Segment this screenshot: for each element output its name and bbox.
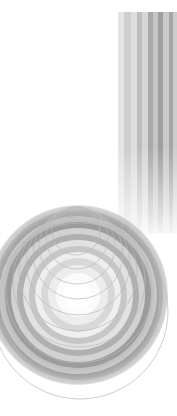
vertical-stripe-band <box>118 12 177 234</box>
stripe-4 <box>142 12 148 234</box>
stripe-1 <box>124 12 131 234</box>
figure-canvas <box>0 0 177 416</box>
stripe-8 <box>163 12 169 234</box>
stripe-2 <box>131 12 137 234</box>
stripe-3 <box>137 12 142 234</box>
stripe-6 <box>153 12 158 234</box>
radial-band-12 <box>64 281 92 309</box>
stripe-7 <box>158 12 163 234</box>
stripe-0 <box>118 12 124 234</box>
abstract-composition-svg <box>0 0 177 416</box>
stripe-5 <box>148 12 153 234</box>
stripe-9 <box>169 12 173 234</box>
stripe-10 <box>173 12 177 234</box>
